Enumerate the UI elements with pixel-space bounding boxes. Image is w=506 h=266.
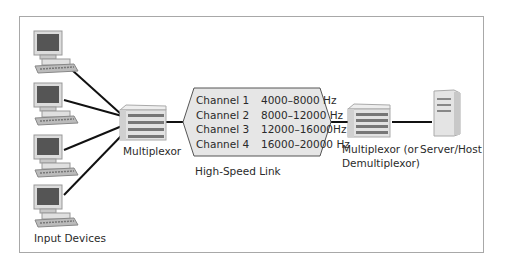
computer-icon [30,28,80,76]
channel-name: Channel 2 [196,108,261,123]
high-speed-link-label: High-Speed Link [195,165,281,178]
right-multiplexor-label-line1: Multiplexor (or [342,143,418,156]
channel-list: Channel 1 4000–8000 Hz Channel 2 8000–12… [196,93,350,151]
channel-name: Channel 1 [196,93,261,108]
channel-range: 16000–20000 Hz [261,137,350,152]
computer-icon [30,80,80,128]
channel-row: Channel 4 16000–20000 Hz [196,137,350,152]
demultiplexor-icon [346,103,392,139]
channel-range: 12000–16000Hz [261,122,346,137]
channel-range: 4000–8000 Hz [261,93,336,108]
computer-icon [30,182,80,230]
input-devices-label: Input Devices [34,232,106,245]
multiplexor-icon [118,104,168,142]
channel-name: Channel 4 [196,137,261,152]
server-label: Server/Host [420,143,482,156]
computer-icon [30,132,80,180]
channel-name: Channel 3 [196,122,261,137]
left-multiplexor-label: Multiplexor [123,145,181,158]
channel-row: Channel 2 8000–12000 Hz [196,108,350,123]
channel-row: Channel 1 4000–8000 Hz [196,93,350,108]
channel-row: Channel 3 12000–16000Hz [196,122,350,137]
channel-range: 8000–12000 Hz [261,108,343,123]
right-multiplexor-label-line2: Demultiplexor) [342,157,420,170]
server-icon [430,88,464,138]
